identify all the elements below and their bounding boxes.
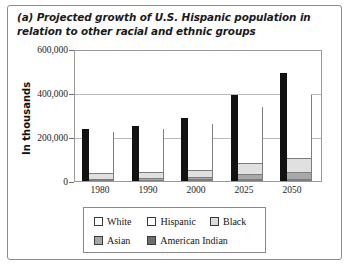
y-tick-label: 600,000 — [8, 45, 68, 55]
bar-segment-asian — [283, 172, 311, 179]
bar-segment-asian — [184, 177, 212, 179]
figure: (a) Projected growth of U.S. Hispanic po… — [0, 0, 349, 267]
legend-item-black: Black — [210, 216, 246, 227]
plot-area — [74, 50, 322, 182]
x-tick-label: 2050 — [270, 185, 314, 195]
legend-swatch-hispanic — [147, 217, 156, 226]
y-tick-label: 200,000 — [8, 133, 68, 143]
legend-row-1: White Hispanic Black — [84, 213, 275, 229]
bar-hispanic — [82, 129, 89, 181]
y-tick-label: 400,000 — [8, 89, 68, 99]
bar-segment-white — [135, 128, 163, 171]
bar-hispanic — [231, 95, 238, 181]
bar-segment-white — [234, 106, 262, 163]
bar-container — [75, 51, 321, 181]
legend-swatch-asian — [94, 236, 103, 245]
legend-item-asian: Asian — [94, 235, 130, 246]
bar-segment-white — [85, 131, 113, 173]
legend-label: Asian — [107, 235, 130, 246]
legend-label: Hispanic — [160, 216, 196, 227]
bar-segment-american-indian — [234, 179, 262, 180]
bar-segment-black — [184, 170, 212, 177]
bar-segment-black — [234, 163, 262, 174]
bar-segment-american-indian — [283, 179, 311, 180]
legend-item-american-indian: American Indian — [147, 235, 227, 246]
legend-swatch-american-indian — [147, 236, 156, 245]
y-axis-title: In thousands — [19, 63, 33, 173]
bar-segment-asian — [234, 174, 262, 179]
chart-legend: White Hispanic Black Asian American Indi… — [83, 207, 266, 253]
legend-label: White — [107, 216, 131, 227]
y-tick-mark — [69, 182, 74, 183]
bar-segment-black — [283, 158, 311, 171]
bar-segment-white — [184, 123, 212, 170]
legend-swatch-black — [210, 217, 219, 226]
x-tick-label: 1990 — [126, 185, 170, 195]
bar-segment-black — [85, 173, 113, 179]
legend-item-white: White — [94, 216, 131, 227]
legend-row-2: Asian American Indian — [84, 232, 275, 248]
x-tick-label: 2000 — [174, 185, 218, 195]
legend-label: Black — [223, 216, 246, 227]
bar-hispanic — [132, 126, 139, 181]
legend-label: American Indian — [160, 235, 227, 246]
x-tick-label: 2025 — [222, 185, 266, 195]
bar-segment-black — [135, 172, 163, 179]
y-tick-label: 0 — [8, 177, 68, 187]
bar-segment-white — [283, 94, 311, 158]
legend-swatch-white — [94, 217, 103, 226]
bar-hispanic — [280, 73, 287, 181]
x-tick-label: 1980 — [78, 185, 122, 195]
bar-segment-asian — [135, 178, 163, 180]
legend-item-hispanic: Hispanic — [147, 216, 196, 227]
bar-hispanic — [181, 118, 188, 181]
